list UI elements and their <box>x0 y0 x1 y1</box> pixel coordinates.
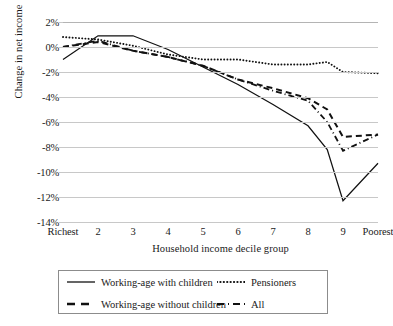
x-axis-tick-label: Richest <box>48 226 79 237</box>
legend-item-working-age-with-children: Working-age with children <box>59 277 209 288</box>
gridline <box>63 222 378 223</box>
x-axis-tick-label: 7 <box>270 226 275 237</box>
gridline <box>63 147 378 148</box>
legend-key-dashdot-icon <box>217 299 245 309</box>
gridline <box>63 122 378 123</box>
gridline <box>63 47 378 48</box>
y-axis-tick-mark <box>59 22 63 23</box>
y-axis-tick-mark <box>59 47 63 48</box>
gridline <box>63 97 378 98</box>
legend-item-all: All <box>209 299 329 310</box>
legend-label: Pensioners <box>251 277 296 288</box>
legend-key-dotted-icon <box>217 277 245 287</box>
y-axis-tick-mark <box>59 172 63 173</box>
legend-label: Working-age without children <box>101 299 226 310</box>
legend-item-pensioners: Pensioners <box>209 277 329 288</box>
y-axis-tick-mark <box>59 122 63 123</box>
y-axis-tick-label: -2% <box>42 67 59 78</box>
y-axis-tick-mark <box>59 72 63 73</box>
y-axis-tick-mark <box>59 222 63 223</box>
x-axis-tick-label: 4 <box>165 226 170 237</box>
gridline <box>63 197 378 198</box>
plot-area: 2%0%-2%-4%-6%-8%-10%-12%-14%Richest23456… <box>63 22 378 222</box>
gridline <box>63 22 378 23</box>
legend-item-working-age-without-children: Working-age without children <box>59 299 209 310</box>
legend-key-dashed-icon <box>67 299 95 309</box>
y-axis-tick-mark <box>59 147 63 148</box>
x-axis-tick-label: 6 <box>235 226 240 237</box>
y-axis-title: Change in net income <box>13 0 24 132</box>
x-axis-tick-label: 3 <box>130 226 135 237</box>
y-axis-tick-mark <box>59 197 63 198</box>
y-axis-tick-label: -6% <box>42 117 59 128</box>
chart-legend: Working-age with children Pensioners Wor… <box>58 270 328 314</box>
y-axis-tick-label: 0% <box>45 42 59 53</box>
x-axis-tick-label: 5 <box>200 226 205 237</box>
x-axis-tick-label: 2 <box>95 226 100 237</box>
y-axis-tick-label: -10% <box>37 167 59 178</box>
legend-key-solid-icon <box>67 277 95 287</box>
x-axis-tick-label: Poorest <box>363 226 393 237</box>
legend-label: All <box>251 299 264 310</box>
y-axis-tick-label: -4% <box>42 92 59 103</box>
legend-label: Working-age with children <box>101 277 213 288</box>
y-axis-tick-label: -8% <box>42 142 59 153</box>
gridline <box>63 172 378 173</box>
y-axis-tick-label: 2% <box>45 17 59 28</box>
series-line <box>63 37 378 73</box>
x-axis-title: Household income decile group <box>63 243 378 254</box>
series-line <box>63 41 378 151</box>
y-axis-tick-mark <box>59 97 63 98</box>
y-axis-tick-label: -12% <box>37 192 59 203</box>
gridline <box>63 72 378 73</box>
x-axis-tick-label: 8 <box>305 226 310 237</box>
x-axis-tick-label: 9 <box>340 226 345 237</box>
series-line <box>63 36 378 201</box>
